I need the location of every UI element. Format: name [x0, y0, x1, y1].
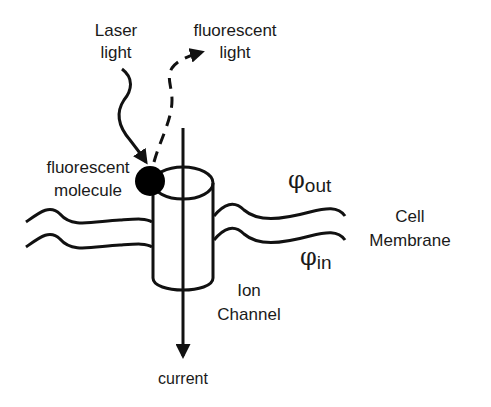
- fluorescent-molecule-dot: [135, 166, 165, 196]
- laser-light-label-line2: light: [100, 43, 131, 62]
- fluorescent-molecule-label-line2: molecule: [54, 181, 122, 200]
- membrane-outer-right: [214, 204, 345, 218]
- fluorescent-light-label-line2: light: [219, 43, 250, 62]
- laser-light-arrow: [119, 69, 146, 162]
- fluorescent-light-label-line1: fluorescent: [193, 21, 276, 40]
- phi-in-label: φin: [300, 243, 332, 273]
- cell-membrane-label-line1: Cell: [395, 207, 424, 226]
- ion-channel-label-line2: Channel: [217, 305, 280, 324]
- fluorescent-light-arrow: [154, 52, 202, 162]
- ion-channel-label-line1: Ion: [237, 281, 261, 300]
- current-label: current: [158, 370, 208, 387]
- phi-out-label: φout: [288, 166, 332, 196]
- ion-channel-diagram: Laser light fluorescent light fluorescen…: [0, 0, 491, 407]
- laser-light-label-line1: Laser: [95, 21, 138, 40]
- fluorescent-molecule-label-line1: fluorescent: [46, 158, 129, 177]
- membrane-outer-left: [26, 209, 152, 223]
- cell-membrane-label-line2: Membrane: [369, 231, 450, 250]
- membrane-inner-right: [214, 228, 345, 242]
- membrane-inner-left: [26, 234, 152, 248]
